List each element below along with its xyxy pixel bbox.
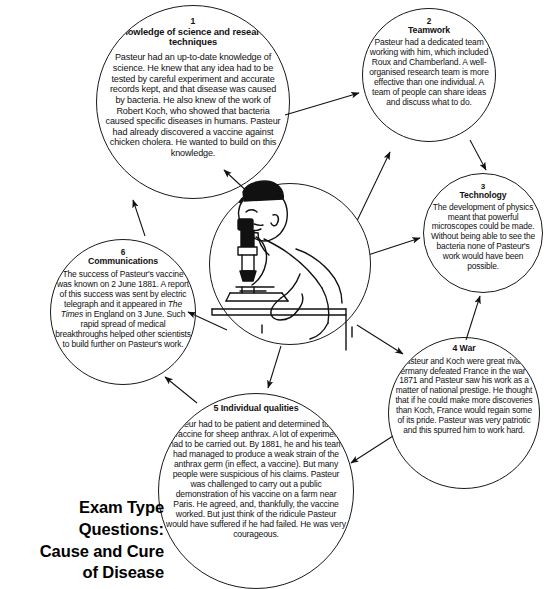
node-5-heading: 5 Individual qualities (213, 404, 298, 414)
node-4-heading: 4 War (453, 344, 476, 354)
arrow-node5-to-node6 (165, 377, 197, 403)
diagram-page: 1 Knowledge of science and research tech… (0, 0, 547, 589)
page-title-line-1: Exam Type (4, 497, 164, 519)
arrow-center-to-node5 (268, 346, 281, 388)
arrow-node4-to-node5 (351, 436, 393, 463)
page-title: Exam Type Questions: Cause and Cure of D… (4, 497, 164, 584)
node-technology[interactable]: 3 Technology The development of physics … (423, 173, 543, 293)
center-circle (209, 183, 371, 345)
node-1-body: Pasteur had an up-to-date knowledge of s… (97, 52, 289, 158)
page-title-line-3: Cause and Cure (4, 541, 164, 563)
node-6-body: The success of Pasteur's vaccine was kno… (51, 270, 195, 350)
node-individual-qualities[interactable]: 5 Individual qualities Pasteur had to be… (158, 393, 354, 589)
arrow-center-to-node4 (357, 325, 403, 354)
node-knowledge-of-science[interactable]: 1 Knowledge of science and research tech… (96, 5, 290, 199)
node-3-heading: Technology (459, 191, 506, 201)
node-war[interactable]: 4 War Pasteur and Koch were great rivals… (388, 337, 540, 489)
page-title-line-4: of Disease (4, 562, 164, 584)
node-4-body: Pasteur and Koch were great rivals. Germ… (389, 357, 539, 436)
node-3-body: The development of physics meant that po… (424, 203, 542, 272)
arrow-center-to-node3 (368, 238, 420, 255)
page-title-line-2: Questions: (4, 519, 164, 541)
arrow-node6-to-node1 (133, 200, 145, 236)
node-1-number: 1 (191, 17, 196, 27)
arrow-node1-to-node2 (285, 93, 359, 115)
node-1-heading: Knowledge of science and research techni… (97, 27, 289, 48)
arrow-center-to-node2 (355, 152, 390, 225)
node-2-heading: Teamwork (408, 26, 450, 36)
node-communications[interactable]: 6 Communications The success of Pasteur'… (50, 239, 196, 385)
node-5-body: Pasteur had to be patient and determined… (159, 419, 353, 540)
arrow-node2-to-node3 (470, 140, 486, 170)
node-6-heading: Communications (88, 257, 158, 267)
node-teamwork[interactable]: 2 Teamwork Pasteur had a dedicated team … (362, 8, 496, 142)
arrow-node4-to-node3 (466, 296, 480, 340)
node-2-body: Pasteur had a dedicated team working wit… (363, 38, 495, 108)
